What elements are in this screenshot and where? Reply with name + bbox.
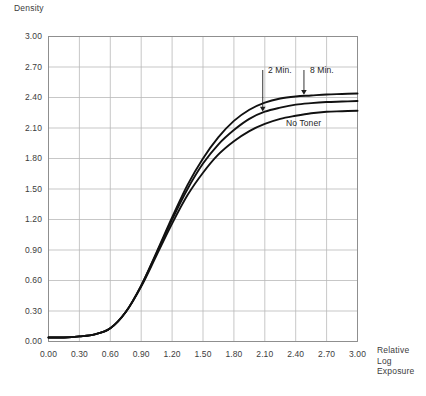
density-vs-log-exposure-chart: Density Relative Log Exposure 0.000.300.… (0, 0, 426, 396)
arrowhead-8-min (301, 90, 307, 95)
plot-area (0, 0, 426, 396)
annotation-no-toner: No Toner (286, 118, 321, 128)
annotation-8-min: 8 Min. (310, 65, 334, 75)
annotation-2-min: 2 Min. (268, 65, 292, 75)
